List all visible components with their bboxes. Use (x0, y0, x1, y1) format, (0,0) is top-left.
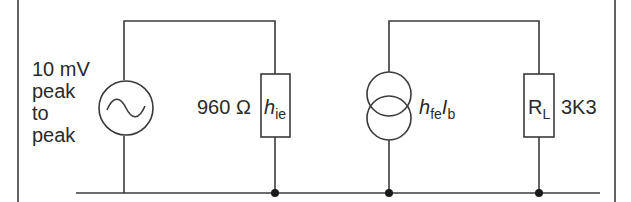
load-symbol-label: RL (528, 96, 550, 125)
circuit-diagram: 10 mV peak to peak 960 Ω hie hfeIb RL 3K… (0, 0, 631, 202)
hie-symbol-label: hie (264, 96, 286, 125)
junction-dot (271, 189, 279, 197)
junction-dot (535, 189, 543, 197)
input-top-wire (124, 21, 275, 80)
ib-symbol-sub: b (447, 106, 455, 122)
hie-value-label: 960 Ω (197, 96, 251, 118)
junction-dot (385, 189, 393, 197)
source-label-line: peak (32, 80, 90, 102)
source-label-line: 10 mV (32, 58, 90, 80)
load-value-label: 3K3 (561, 96, 597, 118)
rl-symbol-main: R (528, 96, 542, 118)
hie-symbol-sub: ie (275, 106, 286, 122)
hfe-symbol-sub: fe (430, 106, 442, 122)
output-top-wire (389, 21, 539, 74)
hfe-symbol-main: h (419, 96, 430, 118)
hie-symbol-main: h (264, 96, 275, 118)
source-label: 10 mV peak to peak (32, 58, 90, 146)
current-source-icon (367, 72, 411, 140)
rl-symbol-sub: L (542, 106, 550, 122)
source-label-line: peak (32, 124, 90, 146)
ac-voltage-source-icon (99, 81, 153, 135)
current-source-label: hfeIb (419, 96, 455, 125)
source-label-line: to (32, 102, 90, 124)
